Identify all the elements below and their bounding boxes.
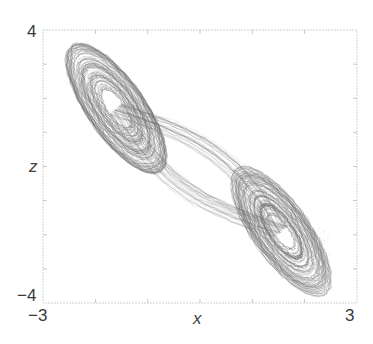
x-axis-label: x [193,310,202,327]
x-min-tick-label: −3 [28,307,47,324]
plot-frame [43,30,357,303]
attractor-plot [0,0,373,344]
z-min-tick-label: −4 [17,287,36,304]
x-max-tick-label: 3 [345,307,354,324]
z-axis-label: z [29,158,38,175]
z-max-tick-label: 4 [27,23,36,40]
axis-ticks [43,30,357,303]
attractor-trajectory [65,43,332,297]
